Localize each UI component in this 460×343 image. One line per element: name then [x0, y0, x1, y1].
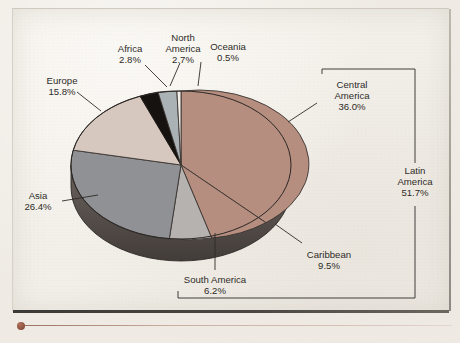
leader-line-caribbean — [275, 224, 302, 243]
label-europe: Europe 15.8% — [47, 75, 78, 97]
label-oceania: Oceania 0.5% — [210, 41, 246, 63]
svg-text:South America: South America — [184, 274, 247, 285]
svg-text:2.8%: 2.8% — [119, 54, 141, 65]
svg-text:2.7%: 2.7% — [172, 54, 194, 65]
footer-rule — [18, 325, 452, 326]
svg-text:51.7%: 51.7% — [401, 187, 429, 198]
leader-line-africa — [145, 65, 167, 87]
svg-text:Latin: Latin — [405, 165, 426, 176]
pie-chart-figure: Europe 15.8% Africa 2.8% North America 2… — [0, 0, 460, 343]
svg-text:0.5%: 0.5% — [217, 52, 239, 63]
svg-text:America: America — [334, 90, 370, 101]
label-caribbean: Caribbean 9.5% — [307, 249, 351, 271]
footer-bullet-dot — [17, 322, 25, 330]
svg-text:26.4%: 26.4% — [24, 201, 52, 212]
label-central-america: Central America 36.0% — [334, 79, 370, 112]
label-north-america: North America 2.7% — [165, 32, 201, 65]
leader-line-central-america — [288, 103, 317, 122]
svg-text:Caribbean: Caribbean — [307, 249, 351, 260]
svg-text:Europe: Europe — [47, 75, 78, 86]
svg-text:Africa: Africa — [118, 43, 143, 54]
page-root: Europe 15.8% Africa 2.8% North America 2… — [0, 0, 460, 343]
label-asia: Asia 26.4% — [24, 190, 52, 212]
svg-text:15.8%: 15.8% — [48, 86, 76, 97]
label-africa: Africa 2.8% — [118, 43, 143, 65]
svg-text:6.2%: 6.2% — [204, 285, 226, 296]
svg-text:Central: Central — [337, 79, 368, 90]
leader-line-europe — [77, 92, 101, 111]
svg-text:America: America — [165, 43, 201, 54]
label-latin-america: Latin America 51.7% — [397, 165, 433, 198]
label-south-america: South America 6.2% — [184, 274, 247, 296]
svg-text:9.5%: 9.5% — [318, 260, 340, 271]
svg-text:Asia: Asia — [29, 190, 48, 201]
svg-text:36.0%: 36.0% — [338, 101, 366, 112]
leader-line-north-america — [170, 63, 180, 86]
pie-slices — [71, 90, 309, 240]
svg-text:Oceania: Oceania — [210, 41, 246, 52]
leader-line-oceania — [198, 62, 201, 86]
svg-text:North: North — [171, 32, 194, 43]
svg-text:America: America — [397, 176, 433, 187]
